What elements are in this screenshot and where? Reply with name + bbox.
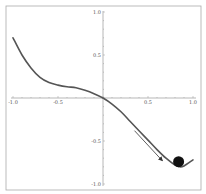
x-tick-label: 0.5 [144, 99, 152, 105]
y-tick-label: 1.0 [93, 9, 101, 15]
y-tick-label: -0.5 [91, 138, 101, 144]
ball-icon [173, 156, 184, 167]
x-tick-label: -1.0 [8, 99, 18, 105]
motion-arrow-icon [135, 131, 163, 161]
chart-canvas: -1.0 -0.5 0.5 1.0 1.0 0.5 -0.5 -1.0 [0, 0, 206, 194]
y-tick-label: -1.0 [91, 181, 101, 187]
x-tick-label: -0.5 [53, 99, 63, 105]
y-tick-label: 0.5 [93, 52, 101, 58]
x-tick-label: 1.0 [189, 99, 197, 105]
